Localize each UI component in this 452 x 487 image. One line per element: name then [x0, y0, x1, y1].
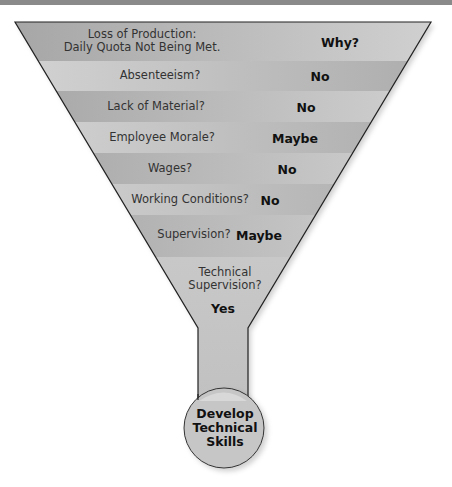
answer-2: No [310, 69, 329, 84]
question-3: Lack of Material? [107, 100, 205, 113]
question-6: Working Conditions? [131, 193, 249, 206]
answer-8: Yes [211, 301, 235, 316]
answer-4: Maybe [272, 131, 318, 146]
result-label: Develop Technical Skills [193, 407, 258, 449]
answer-5: No [277, 162, 296, 177]
question-2: Absenteeism? [120, 69, 201, 82]
answer-6: No [260, 193, 279, 208]
question-5: Wages? [148, 162, 192, 175]
question-7: Supervision? [157, 228, 230, 241]
question-4: Employee Morale? [109, 131, 215, 144]
band-4 [0, 122, 452, 153]
band-5 [0, 153, 452, 184]
question-8: Technical Supervision? [188, 266, 261, 292]
answer-7: Maybe [236, 228, 282, 243]
answer-1: Why? [321, 35, 359, 50]
answer-3: No [296, 100, 315, 115]
band-2 [0, 61, 452, 91]
question-1: Loss of Production: Daily Quota Not Bein… [64, 28, 221, 54]
band-3 [0, 91, 452, 122]
